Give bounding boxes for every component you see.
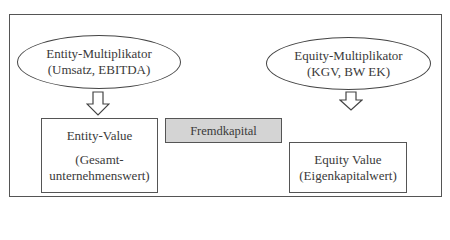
equity-multiplier-ellipse: Equity-Multiplikator (KGV, BW EK) (266, 37, 431, 90)
arrow-down-icon (86, 91, 110, 117)
debt-box: Fremdkapital (165, 118, 282, 143)
equity-value-box: Equity Value (Eigenkapitalwert) (289, 142, 407, 193)
equity-value-subtitle: (Eigenkapitalwert) (299, 168, 396, 184)
entity-multiplier-subtitle: (Umsatz, EBITDA) (48, 62, 151, 78)
equity-multiplier-subtitle: (KGV, BW EK) (307, 64, 390, 80)
entity-multiplier-ellipse: Entity-Multiplikator (Umsatz, EBITDA) (17, 35, 181, 89)
entity-value-subtitle-1: (Gesamt- (75, 152, 123, 168)
entity-value-box: Entity-Value (Gesamt- unternehmenswert) (41, 118, 158, 193)
arrow-down-icon (339, 91, 363, 111)
entity-value-title: Entity-Value (67, 128, 133, 144)
debt-label: Fremdkapital (190, 123, 257, 139)
equity-value-title: Equity Value (314, 152, 381, 168)
entity-multiplier-title: Entity-Multiplikator (46, 46, 151, 62)
entity-value-subtitle-2: unternehmenswert) (49, 168, 149, 184)
equity-multiplier-title: Equity-Multiplikator (294, 48, 402, 64)
